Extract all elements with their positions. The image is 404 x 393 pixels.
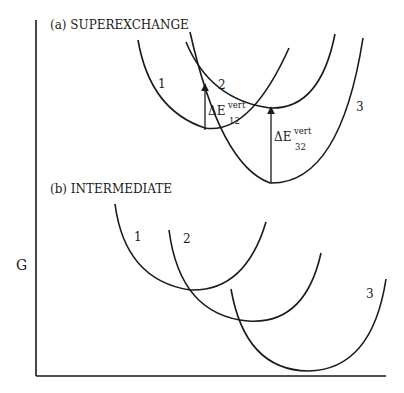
panel-b-title: (b) INTERMEDIATE [50, 182, 172, 196]
svg-text:ΔE: ΔE [208, 104, 225, 118]
delta-e-12-label: ΔE vert 12 [208, 100, 246, 126]
panel-b-curve-2-label: 2 [183, 232, 191, 246]
svg-text:ΔE: ΔE [274, 130, 291, 144]
svg-text:vert: vert [293, 126, 312, 136]
panel-a-curve-3-label: 3 [356, 100, 364, 114]
panel-a-curve-2-label: 2 [218, 78, 226, 92]
panel-a-title: (a) SUPEREXCHANGE [50, 18, 189, 32]
panel-b-curve-2 [169, 230, 321, 321]
free-energy-diagram: G (a) SUPEREXCHANGE 1 2 3 ΔE vert 12 ΔE … [0, 0, 404, 393]
panel-b-curve-1-label: 1 [134, 230, 142, 244]
panel-a-curve-1-label: 1 [158, 77, 166, 91]
panel-b-curve-1 [115, 204, 266, 290]
y-axis-label: G [16, 257, 27, 273]
delta-e-32-label: ΔE vert 32 [274, 126, 312, 152]
panel-b-curve-3-label: 3 [366, 287, 374, 301]
svg-text:32: 32 [295, 142, 306, 152]
svg-text:12: 12 [229, 116, 240, 126]
panel-b-curve-3 [231, 279, 386, 371]
svg-text:vert: vert [227, 100, 246, 110]
